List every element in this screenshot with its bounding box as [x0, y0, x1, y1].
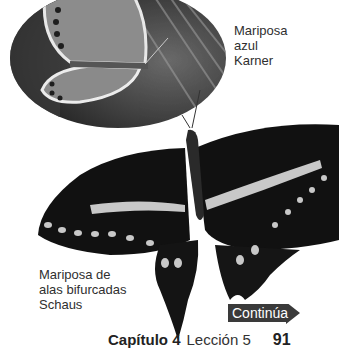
- lesson-label: Lección 5: [187, 331, 251, 348]
- caption-line: Mariposa: [234, 23, 287, 38]
- caption-line: azul: [234, 38, 258, 53]
- continue-button[interactable]: Continúa: [228, 304, 300, 322]
- karner-blue-caption: Mariposa azul Karner: [234, 23, 287, 68]
- caption-line: Mariposa de: [39, 267, 111, 282]
- schaus-swallowtail-caption: Mariposa de alas bifurcadas Schaus: [39, 267, 126, 312]
- caption-line: Karner: [234, 53, 273, 68]
- page-number: 91: [273, 331, 291, 348]
- continue-label: Continúa: [232, 305, 288, 321]
- caption-line: alas bifurcadas: [39, 282, 126, 297]
- caption-line: Schaus: [39, 297, 82, 312]
- page-footer: Capítulo 4Lección 591: [108, 331, 291, 349]
- chapter-label: Capítulo 4: [108, 331, 181, 348]
